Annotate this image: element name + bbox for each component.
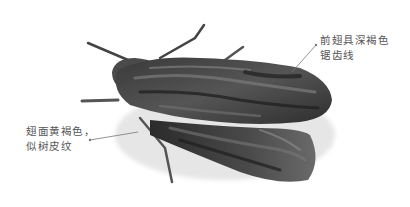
antennae <box>88 25 204 60</box>
annotation-wing-surface-line-2: 似树皮纹 <box>26 139 95 154</box>
annotation-forewing-line-2: 锯齿线 <box>320 48 389 63</box>
annotation-wing-surface-line-1: 翅面黄褐色， <box>26 124 95 139</box>
annotation-wing-surface: 翅面黄褐色， 似树皮纹 <box>26 124 95 154</box>
annotation-forewing: 前翅具深褐色 锯齿线 <box>320 33 389 63</box>
moth-illustration <box>0 0 410 207</box>
figure-stage: 前翅具深褐色 锯齿线 翅面黄褐色， 似树皮纹 <box>0 0 410 207</box>
annotation-forewing-line-1: 前翅具深褐色 <box>320 33 389 48</box>
leader-line-forewing <box>292 45 316 72</box>
